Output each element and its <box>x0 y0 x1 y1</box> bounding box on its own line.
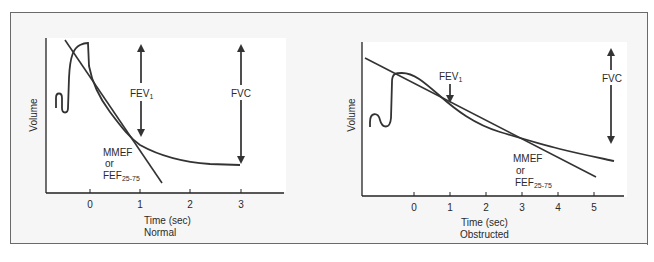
tick-1: 1 <box>137 199 143 210</box>
y-axis-label: Volume <box>346 98 357 132</box>
panel-obstructed: 0 1 2 3 4 5 Time (sec) Obstructed Volume… <box>346 42 627 240</box>
tick-0: 0 <box>87 199 93 210</box>
tick-3: 3 <box>519 202 525 213</box>
tick-2: 2 <box>483 202 489 213</box>
tick-4: 4 <box>555 202 561 213</box>
tick-3: 3 <box>238 199 244 210</box>
tick-5: 5 <box>591 202 597 213</box>
panel-caption: Obstructed <box>460 229 509 240</box>
plot-area <box>362 42 627 197</box>
panel-caption: Normal <box>144 227 176 238</box>
mmef-label: MMEF <box>103 147 132 158</box>
or-label: or <box>105 158 115 169</box>
plot-area <box>46 38 286 192</box>
fvc-label: FVC <box>602 73 622 84</box>
or-label: or <box>516 165 526 176</box>
fvc-label: FVC <box>231 88 251 99</box>
x-axis-label: Time (sec) <box>144 215 191 226</box>
tick-2: 2 <box>187 199 193 210</box>
tick-0: 0 <box>411 202 417 213</box>
x-axis-label: Time (sec) <box>461 217 508 228</box>
y-axis-label: Volume <box>28 98 39 132</box>
mmef-label: MMEF <box>513 153 542 164</box>
panel-normal: 0 1 2 3 Time (sec) Normal Volume FEV1 FV… <box>28 38 286 238</box>
spirometry-figure: 0 1 2 3 Time (sec) Normal Volume FEV1 FV… <box>0 0 654 262</box>
tick-1: 1 <box>447 202 453 213</box>
